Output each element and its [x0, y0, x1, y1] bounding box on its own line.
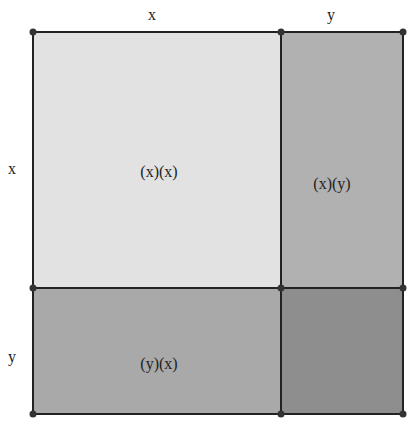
region-x-y: [281, 32, 403, 288]
area-model-diagram: x y x y (x)(x) (x)(y) (y)(x): [0, 0, 412, 428]
region-x-x: [33, 32, 281, 288]
region-y-x: [33, 288, 281, 414]
region-label-x-x: (x)(x): [140, 163, 177, 181]
side-label-y: y: [8, 348, 16, 366]
side-label-x: x: [8, 160, 16, 177]
region-label-y-x: (y)(x): [140, 355, 177, 373]
region-label-x-y: (x)(y): [313, 175, 350, 193]
top-label-y: y: [327, 6, 335, 24]
top-label-x: x: [148, 6, 156, 23]
region-y-y: [281, 288, 403, 414]
